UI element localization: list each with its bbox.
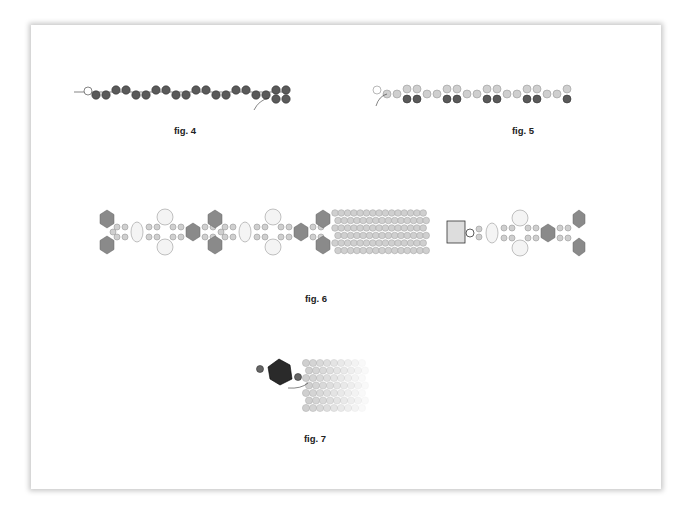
page-frame: fig. 4 fig. 5 fig. 6 fig. 7 bbox=[31, 25, 661, 489]
figure-4-caption: fig. 4 bbox=[145, 125, 225, 136]
figure-6-clasp-diagram bbox=[443, 207, 583, 267]
bracelet-pattern-illustration bbox=[99, 207, 419, 267]
figure-5-diagram bbox=[371, 80, 601, 120]
figure-7-diagram bbox=[246, 355, 366, 425]
bead-strand-illustration bbox=[74, 80, 304, 120]
figure-5-caption: fig. 5 bbox=[483, 125, 563, 136]
crystal-attachment-illustration bbox=[246, 355, 366, 425]
clasp-section-illustration bbox=[443, 207, 583, 267]
figure-6-caption: fig. 6 bbox=[276, 293, 356, 304]
figure-7-caption: fig. 7 bbox=[275, 433, 355, 444]
figure-4-diagram bbox=[74, 80, 304, 120]
figure-6-diagram bbox=[99, 207, 419, 267]
bead-row-illustration bbox=[371, 80, 601, 120]
